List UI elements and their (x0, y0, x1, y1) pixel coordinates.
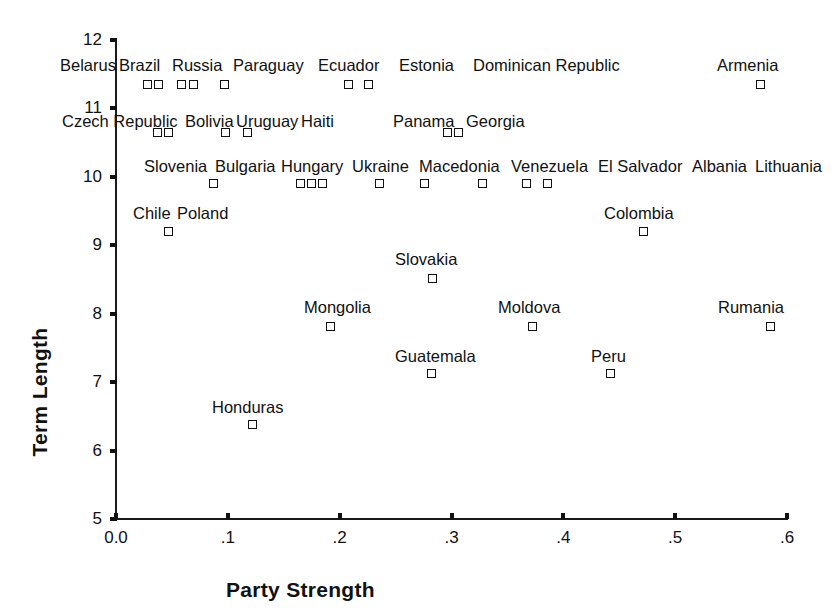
scatter-marker (296, 179, 305, 188)
y-axis-tick-label: 6 (62, 441, 102, 461)
x-axis-tick (338, 513, 342, 519)
point-label: Honduras (212, 399, 284, 416)
scatter-marker (143, 80, 152, 89)
point-label: Ukraine (352, 158, 409, 175)
scatter-marker (528, 322, 537, 331)
point-label: Georgia (466, 113, 525, 130)
y-axis-tick-label: 7 (62, 372, 102, 392)
point-label: Albania (692, 158, 747, 175)
scatter-marker (318, 179, 327, 188)
x-axis-tick-label: .4 (533, 528, 593, 548)
point-label: Mongolia (304, 299, 371, 316)
scatter-marker (375, 179, 384, 188)
scatter-marker (164, 227, 173, 236)
y-axis-tick (110, 449, 117, 453)
point-label: Slovakia (395, 251, 457, 268)
point-label: Slovenia (144, 158, 207, 175)
scatter-marker (606, 369, 615, 378)
x-axis-tick-label: .2 (310, 528, 370, 548)
scatter-marker (326, 322, 335, 331)
point-label: Uruguay (236, 113, 298, 130)
scatter-marker (478, 179, 487, 188)
point-label: Colombia (604, 205, 674, 222)
scatter-marker (220, 80, 229, 89)
y-axis-tick-label: 12 (62, 30, 102, 50)
point-label: Armenia (717, 57, 778, 74)
scatter-marker (189, 80, 198, 89)
scatter-marker (756, 80, 765, 89)
scatter-marker (154, 80, 163, 89)
point-label: Lithuania (755, 158, 822, 175)
y-axis-tick (110, 243, 117, 247)
x-axis-tick-label: .1 (198, 528, 258, 548)
point-label: Moldova (498, 299, 560, 316)
point-label: Rumania (718, 299, 784, 316)
point-label: Russia (172, 57, 222, 74)
point-label: Hungary (281, 158, 343, 175)
point-label: Paraguay (233, 57, 304, 74)
y-axis-title: Term Length (28, 302, 52, 482)
y-axis-tick (110, 175, 117, 179)
point-label: Macedonia (419, 158, 500, 175)
y-axis-tick-label: 8 (62, 304, 102, 324)
scatter-marker (209, 179, 218, 188)
y-axis-tick-label: 10 (62, 167, 102, 187)
x-axis-tick-label: 0.0 (86, 528, 146, 548)
scatter-marker (364, 80, 373, 89)
scatter-marker (543, 179, 552, 188)
y-axis-tick (110, 106, 117, 110)
scatter-marker (427, 369, 436, 378)
x-axis-title: Party Strength (116, 578, 416, 602)
point-label: Venezuela (511, 158, 588, 175)
scatter-marker (177, 80, 186, 89)
y-axis-tick (110, 312, 117, 316)
point-label: Belarus (60, 57, 116, 74)
x-axis-tick (226, 513, 230, 519)
point-label: Panama (393, 113, 454, 130)
point-label: Poland (177, 205, 228, 222)
scatter-marker (420, 179, 429, 188)
point-label: El Salvador (598, 158, 682, 175)
y-axis-tick-label: 5 (62, 509, 102, 529)
x-axis-tick (114, 513, 118, 519)
scatter-marker (307, 179, 316, 188)
scatter-marker (639, 227, 648, 236)
point-label: Chile (133, 205, 171, 222)
point-label: Guatemala (395, 348, 476, 365)
scatter-marker (428, 274, 437, 283)
scatter-plot: 56789101112 0.0.1.2.3.4.5.6 BelarusBrazi… (0, 0, 834, 609)
point-label: Bolivia (185, 113, 234, 130)
y-axis-tick (110, 380, 117, 384)
x-axis-tick-label: .6 (757, 528, 817, 548)
y-axis-tick-label: 9 (62, 235, 102, 255)
point-label: Peru (591, 348, 626, 365)
x-axis-tick (450, 513, 454, 519)
scatter-marker (344, 80, 353, 89)
x-axis-tick (785, 513, 789, 519)
point-label: Dominican Republic (473, 57, 620, 74)
scatter-marker (454, 128, 463, 137)
point-label: Ecuador (318, 57, 379, 74)
point-label: Brazil (119, 57, 160, 74)
y-axis-tick (110, 38, 117, 42)
scatter-marker (766, 322, 775, 331)
x-axis-tick (673, 513, 677, 519)
point-label: Czech Republic (62, 113, 178, 130)
point-label: Haiti (301, 113, 334, 130)
point-label: Bulgaria (215, 158, 276, 175)
point-label: Estonia (399, 57, 454, 74)
scatter-marker (248, 420, 257, 429)
x-axis-tick (561, 513, 565, 519)
x-axis-tick-label: .5 (645, 528, 705, 548)
scatter-marker (522, 179, 531, 188)
x-axis-tick-label: .3 (422, 528, 482, 548)
